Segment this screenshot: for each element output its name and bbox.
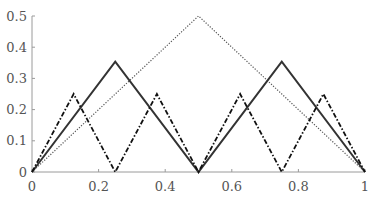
- y-tick-label: 0.1: [6, 133, 27, 148]
- y-tick-label: 0: [19, 165, 27, 180]
- y-tick-label: 0.5: [6, 9, 27, 24]
- x-tick-label: 0.8: [288, 179, 309, 194]
- series-line-dotted-tent-1: [32, 16, 365, 172]
- x-tick-label: 0.2: [88, 179, 109, 194]
- y-ticks: 00.10.20.30.40.5: [6, 9, 35, 180]
- x-tick-label: 0.6: [221, 179, 242, 194]
- x-tick-label: 0: [28, 179, 36, 194]
- line-chart: 00.20.40.60.81 00.10.20.30.40.5: [0, 0, 375, 202]
- x-tick-label: 1: [361, 179, 369, 194]
- y-tick-label: 0.3: [6, 71, 27, 86]
- series-line-solid-tent-2: [32, 62, 365, 172]
- series-group: [32, 16, 365, 172]
- axes: [32, 16, 365, 172]
- x-tick-label: 0.4: [155, 179, 176, 194]
- y-tick-label: 0.2: [6, 102, 27, 117]
- y-tick-label: 0.4: [6, 40, 27, 55]
